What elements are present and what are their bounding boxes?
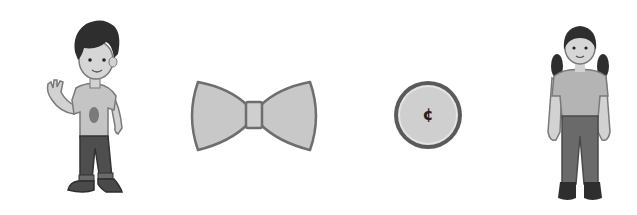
bow-tie-icon [190, 78, 318, 152]
girl-figure [540, 14, 620, 204]
cent-symbol: ¢ [391, 78, 465, 152]
boy-icon [38, 14, 134, 194]
illustration-canvas: ¢ [0, 0, 637, 215]
bow-tie [190, 78, 318, 152]
boy-figure [38, 14, 134, 194]
coin: ¢ [391, 78, 465, 152]
girl-icon [540, 14, 620, 204]
